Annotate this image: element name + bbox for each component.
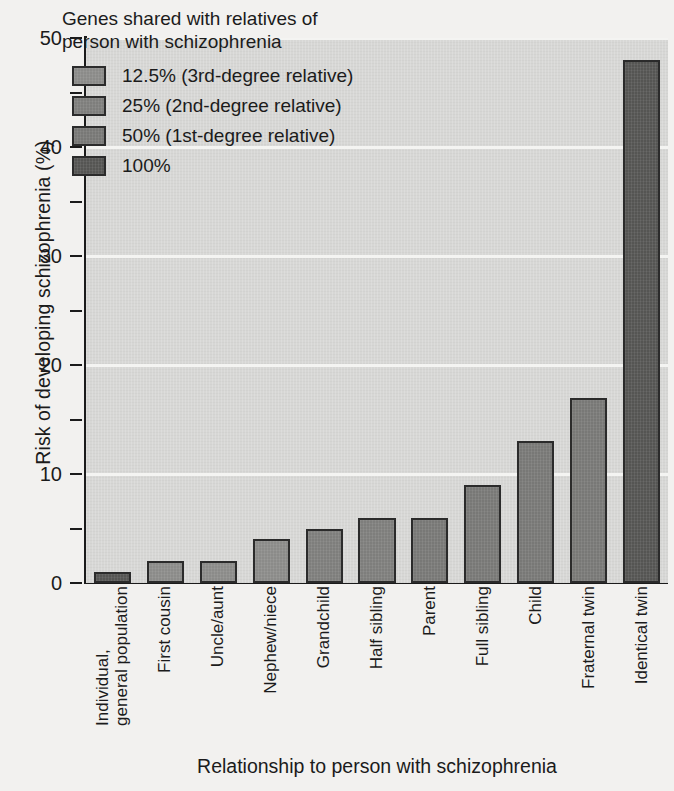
x-tick-label-text: Nephew/niece	[262, 586, 281, 694]
x-tick-label-text: Full sibling	[473, 586, 492, 666]
x-tick-label-text: Individual,general population	[93, 586, 131, 726]
x-tick-label: Parent	[403, 586, 456, 746]
bar	[570, 398, 607, 583]
legend-item: 25% (2nd-degree relative)	[62, 91, 492, 121]
x-tick-label-line: Half sibling	[367, 586, 386, 669]
y-tick-label: 50	[40, 28, 62, 48]
legend-swatch-texture	[74, 158, 104, 174]
legend-swatch	[72, 66, 106, 86]
x-tick-label-line: Parent	[420, 586, 439, 636]
bar-texture	[96, 574, 129, 581]
x-tick-label-line: Full sibling	[473, 586, 492, 666]
x-tick-label-line: general population	[112, 586, 131, 726]
x-axis-tick-labels: Individual,general populationFirst cousi…	[86, 586, 668, 746]
legend-item-label: 50% (1st-degree relative)	[122, 126, 335, 145]
y-tick-mark-minor	[70, 528, 82, 530]
x-tick-label-line: Fraternal twin	[579, 586, 598, 689]
bar-texture	[149, 563, 182, 581]
legend-item: 100%	[62, 151, 492, 181]
x-tick-label-line: Uncle/aunt	[209, 586, 228, 667]
bar	[358, 518, 395, 583]
bar-texture	[308, 531, 341, 582]
bar	[623, 60, 660, 583]
bar	[200, 561, 237, 583]
x-tick-label-text: Fraternal twin	[579, 586, 598, 689]
bar-texture	[625, 62, 658, 581]
bar-texture	[360, 520, 393, 581]
bar-texture	[255, 541, 288, 581]
bar	[464, 485, 501, 583]
x-tick-label-line: Identical twin	[632, 586, 651, 684]
bar	[253, 539, 290, 583]
y-tick-label: 20	[40, 355, 62, 375]
bar-texture	[572, 400, 605, 581]
y-tick-label: 30	[40, 246, 62, 266]
bar-texture	[202, 563, 235, 581]
y-tick-mark	[70, 582, 82, 584]
x-tick-label-line: Child	[526, 586, 545, 625]
legend-swatch-texture	[74, 98, 104, 114]
x-tick-label-line: First cousin	[156, 586, 175, 673]
x-tick-label: Uncle/aunt	[192, 586, 245, 746]
x-tick-label-text: Identical twin	[632, 586, 651, 684]
legend-items: 12.5% (3rd-degree relative)25% (2nd-degr…	[62, 61, 492, 181]
bar	[517, 441, 554, 583]
x-tick-label: First cousin	[139, 586, 192, 746]
bar-texture	[413, 520, 446, 581]
legend-swatch	[72, 126, 106, 146]
bar-texture	[519, 443, 552, 581]
legend-swatch-texture	[74, 128, 104, 144]
x-tick-label-text: Uncle/aunt	[209, 586, 228, 667]
y-tick-mark-minor	[70, 201, 82, 203]
legend-item-label: 100%	[122, 156, 171, 175]
x-tick-label: Grandchild	[298, 586, 351, 746]
x-tick-label-text: Parent	[420, 586, 439, 636]
y-tick-mark-minor	[70, 419, 82, 421]
legend-item: 50% (1st-degree relative)	[62, 121, 492, 151]
bar	[306, 529, 343, 584]
y-tick-mark	[70, 473, 82, 475]
y-tick-mark	[70, 364, 82, 366]
legend-swatch	[72, 96, 106, 116]
x-tick-label: Nephew/niece	[245, 586, 298, 746]
legend-item: 12.5% (3rd-degree relative)	[62, 61, 492, 91]
legend-swatch-texture	[74, 68, 104, 84]
bar-texture	[466, 487, 499, 581]
y-tick-mark-minor	[70, 310, 82, 312]
gridline	[86, 255, 668, 258]
x-tick-label: Fraternal twin	[562, 586, 615, 746]
bar	[94, 572, 131, 583]
x-tick-label-text: First cousin	[156, 586, 175, 673]
y-tick-label: 0	[51, 573, 62, 593]
y-tick-label: 10	[40, 464, 62, 484]
x-tick-label-line: Individual,	[93, 649, 112, 726]
x-tick-label: Child	[509, 586, 562, 746]
legend-item-label: 25% (2nd-degree relative)	[122, 96, 342, 115]
x-tick-label: Full sibling	[456, 586, 509, 746]
y-tick-mark	[70, 255, 82, 257]
bar	[411, 518, 448, 583]
chart-figure: Risk of developing schizophrenia (%) 010…	[0, 0, 674, 791]
legend: Genes shared with relatives of person wi…	[62, 8, 492, 181]
y-tick-label: 40	[40, 137, 62, 157]
x-axis-title: Relationship to person with schizophreni…	[86, 755, 668, 778]
x-tick-label-text: Child	[526, 586, 545, 625]
gridline	[86, 364, 668, 367]
x-tick-label-text: Half sibling	[367, 586, 386, 669]
x-tick-label: Identical twin	[615, 586, 668, 746]
legend-title: Genes shared with relatives of person wi…	[62, 8, 492, 54]
x-tick-label: Half sibling	[351, 586, 404, 746]
x-tick-label-line: Grandchild	[315, 586, 334, 668]
x-tick-label-text: Grandchild	[315, 586, 334, 668]
legend-swatch	[72, 156, 106, 176]
legend-item-label: 12.5% (3rd-degree relative)	[122, 66, 353, 85]
bar	[147, 561, 184, 583]
x-tick-label: Individual,general population	[86, 586, 139, 746]
x-tick-label-line: Nephew/niece	[262, 586, 281, 694]
